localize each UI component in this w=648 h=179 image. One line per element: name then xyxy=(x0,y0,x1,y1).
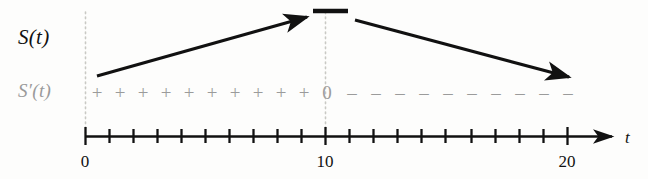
decreasing-arrow xyxy=(355,20,569,77)
axis-tick-label: 20 xyxy=(559,152,576,172)
axis-tick-label: 0 xyxy=(81,152,90,172)
axis-variable-label: t xyxy=(625,128,630,148)
sign-chart-figure: S(t) S′(t) t ++++++++++0–––––––––– 01020 xyxy=(0,0,648,179)
increasing-arrow xyxy=(97,17,307,76)
derivative-label: S′(t) xyxy=(18,80,51,102)
function-label: S(t) xyxy=(18,25,50,50)
axis-tick-label: 10 xyxy=(317,152,334,172)
axis-ticks xyxy=(86,127,568,145)
